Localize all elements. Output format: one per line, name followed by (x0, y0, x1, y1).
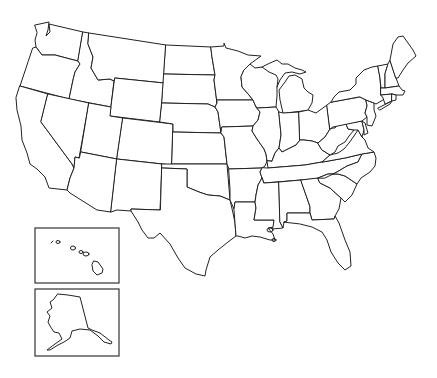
state-florida[interactable] (284, 213, 351, 270)
state-arizona[interactable] (67, 152, 117, 212)
us-map: United States outline map (0, 0, 437, 378)
us-map-svg (0, 0, 437, 378)
state-rhode-island[interactable] (392, 94, 396, 101)
state-north-dakota[interactable] (164, 45, 215, 75)
state-colorado[interactable] (117, 118, 173, 165)
state-wyoming[interactable] (110, 78, 164, 122)
state-michigan[interactable] (279, 75, 313, 113)
state-montana[interactable] (88, 33, 166, 83)
state-kansas[interactable] (172, 132, 227, 164)
hawaii-inset-box (35, 228, 119, 283)
alaska-inset-box (35, 289, 119, 356)
state-south-dakota[interactable] (162, 74, 217, 107)
state-maine[interactable] (390, 36, 416, 78)
state-new-mexico[interactable] (111, 159, 162, 212)
state-new-jersey[interactable] (365, 100, 376, 126)
